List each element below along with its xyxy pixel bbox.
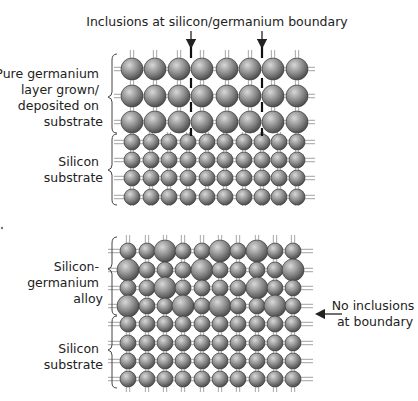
silicon-atom: [157, 298, 173, 314]
germanium-atom: [286, 111, 308, 133]
germanium-atom: [246, 277, 268, 299]
germanium-atom: [168, 58, 190, 80]
silicon-atom: [285, 243, 301, 259]
silicon-atom: [271, 152, 287, 168]
silicon-atom: [139, 243, 155, 259]
silicon-atom: [230, 371, 246, 387]
germanium-atom: [216, 111, 238, 133]
silicon-atom: [254, 152, 270, 168]
alloy-brace: [108, 237, 117, 315]
germanium-atom: [191, 111, 213, 133]
germanium-atom: [121, 111, 143, 133]
silicon-atom: [267, 262, 283, 278]
silicon-atom: [139, 371, 155, 387]
germanium-atom: [286, 85, 308, 107]
silicon-atom: [120, 335, 136, 351]
silicon-atom: [230, 243, 246, 259]
germanium-brace: [108, 54, 117, 133]
germanium-atom: [262, 85, 284, 107]
silicon-atom: [236, 170, 252, 186]
silicon-atom: [143, 152, 159, 168]
silicon-atom: [254, 134, 270, 150]
germanium-atom: [168, 111, 190, 133]
germanium-atom: [144, 58, 166, 80]
silicon-brace-top: [108, 134, 117, 205]
silicon-atom: [267, 353, 283, 369]
germanium-atom: [172, 295, 194, 317]
alloy-label: Silicon- germanium alloy: [27, 259, 103, 306]
silicon-atom: [143, 189, 159, 205]
silicon-atom: [161, 152, 177, 168]
silicon-atom: [175, 262, 191, 278]
silicon-atom: [139, 280, 155, 296]
germanium-atom: [154, 277, 176, 299]
silicon-atom: [199, 152, 215, 168]
silicon-atom: [199, 134, 215, 150]
bottom-atoms: [117, 240, 304, 387]
top-atoms: [121, 58, 308, 205]
silicon-atom: [236, 152, 252, 168]
germanium-atom: [209, 295, 231, 317]
silicon-atom: [285, 335, 301, 351]
silicon-atom: [139, 298, 155, 314]
silicon-atom: [236, 189, 252, 205]
silicon-atom: [230, 335, 246, 351]
germanium-atom: [144, 85, 166, 107]
silicon-atom: [180, 170, 196, 186]
silicon-atom: [124, 152, 140, 168]
silicon-atom: [249, 371, 265, 387]
stray-dot: [1, 227, 3, 229]
germanium-atom: [282, 259, 304, 281]
silicon-atom: [212, 353, 228, 369]
silicon-atom: [143, 170, 159, 186]
silicon-atom: [139, 335, 155, 351]
silicon-atom: [285, 298, 301, 314]
silicon-atom: [249, 262, 265, 278]
silicon-atom: [194, 298, 210, 314]
silicon-atom: [180, 189, 196, 205]
silicon-atom: [120, 371, 136, 387]
silicon-atom: [194, 353, 210, 369]
germanium-atom: [191, 85, 213, 107]
silicon-atom: [217, 170, 233, 186]
silicon-atom: [194, 335, 210, 351]
germanium-atom: [209, 240, 231, 262]
silicon-atom: [120, 353, 136, 369]
silicon-atom: [217, 134, 233, 150]
silicon-atom: [180, 152, 196, 168]
silicon-atom: [157, 371, 173, 387]
silicon-atom: [194, 280, 210, 296]
silicon-atom: [124, 189, 140, 205]
silicon-atom: [161, 170, 177, 186]
silicon-atom: [289, 170, 305, 186]
germanium-atom: [264, 295, 286, 317]
silicon-atom: [124, 170, 140, 186]
silicon-atom: [267, 243, 283, 259]
germanium-atom: [239, 85, 261, 107]
silicon-atom: [157, 316, 173, 332]
silicon-atom: [194, 316, 210, 332]
silicon-atom: [161, 134, 177, 150]
silicon-atom: [212, 262, 228, 278]
silicon-atom: [285, 353, 301, 369]
silicon-atom: [175, 353, 191, 369]
silicon-atom: [175, 280, 191, 296]
silicon-atom: [139, 353, 155, 369]
silicon-atom: [285, 316, 301, 332]
silicon-atom: [267, 371, 283, 387]
silicon-atom: [157, 335, 173, 351]
silicon-atom: [180, 134, 196, 150]
silicon-atom: [194, 243, 210, 259]
silicon-substrate-label-top: Silicon substrate: [44, 154, 103, 185]
silicon-atom: [267, 280, 283, 296]
germanium-atom: [239, 111, 261, 133]
germanium-atom: [191, 58, 213, 80]
silicon-atom: [254, 170, 270, 186]
top-panel: Inclusions at silicon/germanium boundary…: [0, 14, 348, 206]
silicon-atom: [212, 371, 228, 387]
silicon-atom: [230, 353, 246, 369]
silicon-atom: [199, 189, 215, 205]
silicon-atom: [212, 280, 228, 296]
germanium-atom: [168, 85, 190, 107]
silicon-atom: [212, 316, 228, 332]
